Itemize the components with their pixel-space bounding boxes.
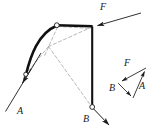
force-vector-F — [98, 13, 142, 26]
pin-a-joint — [24, 72, 28, 76]
figure-canvas: F A B F A B — [0, 0, 160, 137]
top-horizontal-member — [57, 25, 93, 26]
construction-lines — [26, 27, 93, 107]
dashed-instant-center-to-b — [49, 47, 92, 107]
label-triangle-B: B — [109, 83, 115, 93]
label-triangle-A: A — [139, 81, 145, 91]
mechanics-diagram-svg — [0, 0, 160, 137]
label-main-B: B — [83, 114, 89, 124]
pin-b-joint — [90, 105, 95, 110]
label-main-F: F — [100, 2, 106, 12]
force-vector-B — [92, 108, 109, 125]
label-triangle-F: F — [124, 58, 130, 68]
top-joint — [54, 23, 59, 28]
label-main-A: A — [17, 106, 23, 116]
curved-member-arc — [26, 26, 57, 75]
dashed-joint-to-instant-center — [49, 27, 93, 47]
triangle-side-B — [118, 83, 131, 96]
